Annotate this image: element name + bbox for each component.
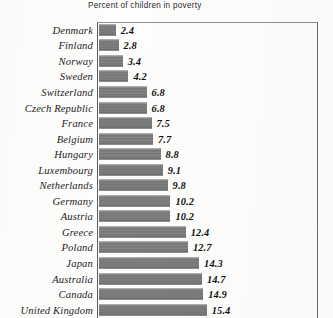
bar-row: Greece12.4	[0, 224, 333, 240]
bar	[99, 226, 186, 237]
bar-value-label: 9.1	[168, 164, 181, 175]
bar-value-label: 9.8	[173, 180, 186, 191]
bar-row: Finland2.8	[0, 38, 333, 54]
bar	[99, 133, 153, 144]
bar-with-value: 2.4	[99, 24, 134, 35]
bar	[99, 24, 116, 35]
bar	[99, 211, 170, 222]
category-label: Canada	[59, 289, 93, 300]
bar-value-label: 10.2	[175, 211, 194, 222]
bar	[99, 257, 199, 268]
bar-with-value: 12.7	[99, 242, 211, 253]
bar	[99, 195, 170, 206]
category-label: Hungary	[54, 149, 93, 160]
bar-with-value: 3.4	[99, 55, 141, 66]
bar	[99, 180, 168, 191]
bar-value-label: 6.8	[152, 102, 165, 113]
bar-with-value: 9.8	[99, 180, 186, 191]
chart-screenshot: Percent of children in poverty Denmark2.…	[0, 0, 333, 318]
category-label: Denmark	[53, 24, 93, 35]
bar-row: Austria10.2	[0, 209, 333, 225]
bar	[99, 242, 188, 253]
category-label: United Kingdom	[21, 304, 93, 315]
category-label: Sweden	[60, 71, 93, 82]
category-label: Greece	[62, 226, 93, 237]
bar-value-label: 8.8	[166, 149, 179, 160]
bar-value-label: 14.9	[208, 289, 227, 300]
bar	[99, 102, 147, 113]
bar-row: Switzerland6.8	[0, 84, 333, 100]
bar	[99, 40, 119, 51]
category-label: Czech Republic	[25, 102, 93, 113]
bar-value-label: 7.5	[157, 118, 170, 129]
bar-with-value: 15.4	[99, 304, 230, 315]
bar-with-value: 10.2	[99, 195, 194, 206]
bar-with-value: 14.9	[99, 289, 227, 300]
bar	[99, 149, 161, 160]
bar-row: Belgium7.7	[0, 131, 333, 147]
category-label: Finland	[58, 40, 93, 51]
bar	[99, 86, 147, 97]
bar-value-label: 4.2	[133, 71, 146, 82]
category-label: Netherlands	[40, 180, 93, 191]
category-label: Switzerland	[41, 86, 93, 97]
bar-value-label: 12.4	[191, 226, 210, 237]
bar-row: Poland12.7	[0, 240, 333, 256]
bar-row: Germany10.2	[0, 193, 333, 209]
category-label: Austria	[61, 211, 93, 222]
bar-value-label: 3.4	[128, 55, 141, 66]
bar-row: Sweden4.2	[0, 69, 333, 85]
bar-row: Norway3.4	[0, 53, 333, 69]
bar	[99, 164, 163, 175]
category-label: Australia	[52, 273, 93, 284]
bar	[99, 289, 203, 300]
bar-with-value: 7.5	[99, 118, 170, 129]
category-label: France	[62, 118, 94, 129]
bar-value-label: 14.3	[204, 257, 223, 268]
bar-value-label: 10.2	[175, 195, 194, 206]
bar	[99, 71, 128, 82]
bar-with-value: 9.1	[99, 164, 181, 175]
bar-with-value: 12.4	[99, 226, 209, 237]
bar-rows: Denmark2.4Finland2.8Norway3.4Sweden4.2Sw…	[0, 22, 333, 318]
bar-row: France7.5	[0, 115, 333, 131]
bar	[99, 118, 152, 129]
bar-with-value: 7.7	[99, 133, 171, 144]
bar-value-label: 2.4	[121, 24, 134, 35]
bar-with-value: 6.8	[99, 86, 165, 97]
chart-title: Percent of children in poverty	[88, 1, 202, 10]
bar-with-value: 8.8	[99, 149, 179, 160]
bar	[99, 273, 202, 284]
bar-row: Australia14.7	[0, 271, 333, 287]
bar-with-value: 10.2	[99, 211, 194, 222]
category-label: Norway	[59, 55, 93, 66]
bar-value-label: 12.7	[193, 242, 212, 253]
bar-with-value: 14.3	[99, 257, 223, 268]
category-label: Japan	[66, 257, 93, 268]
bar	[99, 304, 207, 315]
category-label: Poland	[61, 242, 93, 253]
category-label: Germany	[53, 195, 93, 206]
bar-row: Hungary8.8	[0, 146, 333, 162]
bar-row: Netherlands9.8	[0, 177, 333, 193]
category-label: Belgium	[57, 133, 93, 144]
bar-row: Luxembourg9.1	[0, 162, 333, 178]
bar-with-value: 14.7	[99, 273, 225, 284]
bar-value-label: 15.4	[212, 304, 231, 315]
bar-row: United Kingdom15.4	[0, 302, 333, 318]
bar-row: Canada14.9	[0, 286, 333, 302]
bar-value-label: 6.8	[152, 86, 165, 97]
bar-row: Denmark2.4	[0, 22, 333, 38]
category-label: Luxembourg	[38, 164, 93, 175]
bar-row: Czech Republic6.8	[0, 100, 333, 116]
bar-value-label: 7.7	[158, 133, 171, 144]
bar-row: Japan14.3	[0, 255, 333, 271]
bar	[99, 55, 123, 66]
bar-value-label: 14.7	[207, 273, 226, 284]
bar-with-value: 2.8	[99, 40, 137, 51]
bar-with-value: 4.2	[99, 71, 147, 82]
bar-with-value: 6.8	[99, 102, 165, 113]
bar-value-label: 2.8	[124, 40, 137, 51]
